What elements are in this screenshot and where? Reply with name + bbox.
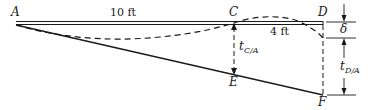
tCA-dimension (231, 23, 237, 75)
svg-text:D/A: D/A (344, 66, 360, 75)
point-A-label: A (10, 5, 20, 19)
right-dimensions (326, 4, 356, 95)
tCA-label: t C/A (239, 39, 259, 55)
dimension-AC-label: 10 ft (110, 6, 137, 19)
beam-deflection-diagram: A 10 ft C D 4 ft δ t C/A E t D/A F (0, 0, 368, 110)
point-E-label: E (228, 75, 238, 89)
delta-label: δ (340, 22, 347, 36)
tDA-label: t D/A (340, 59, 360, 75)
point-C-label: C (229, 5, 238, 19)
svg-text:C/A: C/A (244, 46, 259, 55)
point-F-label: F (317, 95, 327, 109)
point-D-label: D (317, 5, 328, 19)
dimension-CD-label: 4 ft (270, 25, 290, 38)
